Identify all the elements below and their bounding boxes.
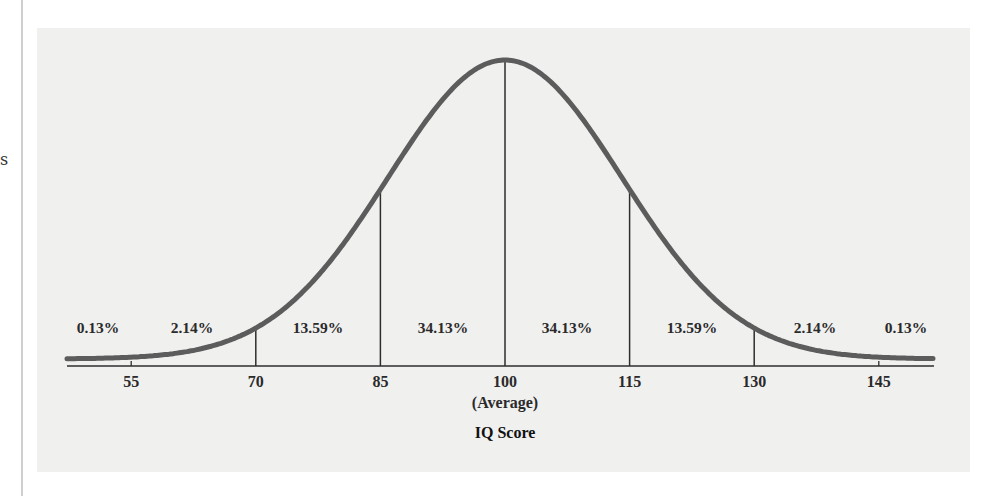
normal-distribution-chart: 557085100115130145 0.13%2.14%13.59%34.13… (0, 0, 1005, 496)
region-label: 34.13% (542, 319, 592, 336)
tick-label-100: 100 (493, 373, 517, 390)
region-label: 2.14% (794, 319, 837, 336)
region-label: 2.14% (171, 319, 214, 336)
tick-label-70: 70 (248, 373, 264, 390)
region-percent-labels: 0.13%2.14%13.59%34.13%34.13%13.59%2.14%0… (77, 319, 928, 336)
region-label: 34.13% (418, 319, 468, 336)
tick-label-115: 115 (618, 373, 641, 390)
region-label: 0.13% (77, 319, 120, 336)
mean-annotation: (Average) (472, 394, 538, 412)
tick-label-130: 130 (742, 373, 766, 390)
region-label: 0.13% (885, 319, 928, 336)
tick-label-85: 85 (372, 373, 388, 390)
x-axis-label: IQ Score (475, 424, 536, 441)
region-label: 13.59% (293, 319, 343, 336)
tick-label-55: 55 (123, 373, 139, 390)
tick-label-145: 145 (867, 373, 891, 390)
bell-curve (67, 60, 933, 359)
region-label: 13.59% (667, 319, 717, 336)
